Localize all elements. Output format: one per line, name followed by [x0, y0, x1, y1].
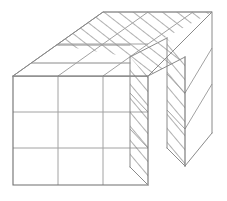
diagram-canvas: Cuboid with stepped notch, grid-ruled an… [0, 0, 227, 201]
front-face-fill [13, 76, 148, 185]
cuboid-figure: Cuboid with stepped notch, grid-ruled an… [0, 0, 227, 201]
